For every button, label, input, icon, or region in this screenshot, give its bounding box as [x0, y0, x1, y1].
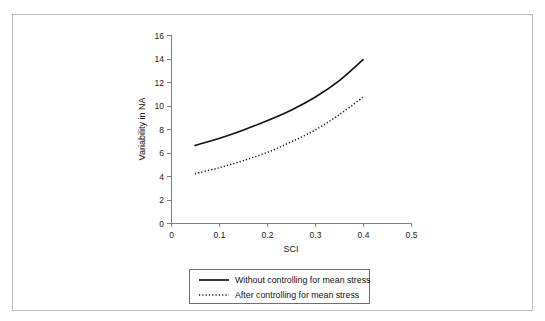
x-tick-label: 0.4	[358, 230, 370, 240]
series-line-1	[195, 60, 363, 146]
y-tick-label: 16	[155, 31, 165, 41]
x-tick-label: 0.2	[262, 230, 274, 240]
figure-frame: 024681012141600.10.20.30.40.5SCIVariabil…	[12, 14, 533, 311]
y-tick-label: 14	[155, 54, 165, 64]
x-tick-label: 0.1	[214, 230, 226, 240]
series-line-2	[195, 97, 363, 173]
y-tick-label: 0	[159, 219, 164, 229]
x-tick-label: 0.3	[310, 230, 322, 240]
x-tick-label: 0	[169, 230, 174, 240]
x-tick-label: 0.5	[406, 230, 418, 240]
y-tick-label: 10	[155, 101, 165, 111]
chart-canvas: 024681012141600.10.20.30.40.5SCIVariabil…	[13, 15, 532, 310]
legend-label-1: Without controlling for mean stress	[235, 275, 371, 285]
y-tick-label: 6	[159, 148, 164, 158]
legend-label-2: After controlling for mean stress	[235, 290, 360, 300]
y-axis-title: Variability in NA	[137, 98, 147, 161]
y-tick-label: 2	[159, 195, 164, 205]
y-tick-label: 12	[155, 78, 165, 88]
y-tick-label: 4	[159, 172, 164, 182]
y-tick-label: 8	[159, 125, 164, 135]
x-axis-title: SCI	[283, 244, 298, 254]
